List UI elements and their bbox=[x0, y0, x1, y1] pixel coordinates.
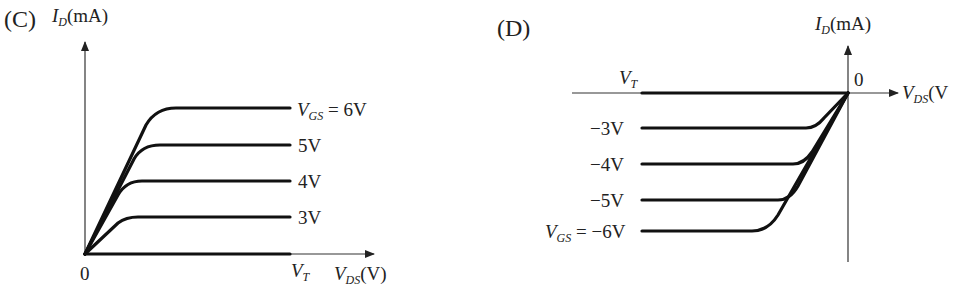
label-5v: 5V bbox=[298, 135, 322, 156]
label-neg3v: −3V bbox=[590, 118, 624, 139]
curve-vgs-neg6v bbox=[642, 93, 848, 231]
curve-vgs-3v bbox=[85, 217, 290, 254]
panel-d-origin: 0 bbox=[854, 69, 864, 90]
panel-c-curves bbox=[85, 108, 290, 254]
panel-d-curves bbox=[642, 93, 848, 231]
panel-d-tag: (D) bbox=[497, 15, 530, 41]
label-d-vt: VT bbox=[619, 67, 639, 91]
panel-c: (C) ID(mA) VGS = 6V 5V 4V 3V VT 0 VDS(V) bbox=[4, 5, 387, 287]
label-vgs-6v: VGS = 6V bbox=[297, 99, 367, 123]
panel-d-x-axis-label: VDS(V bbox=[902, 82, 949, 106]
label-vgs-neg6v: VGS = −6V bbox=[545, 221, 626, 245]
label-vt: VT bbox=[291, 260, 311, 284]
panel-c-tag: (C) bbox=[4, 6, 36, 32]
label-3v: 3V bbox=[298, 207, 322, 228]
label-neg5v: −5V bbox=[590, 190, 624, 211]
panel-d-y-axis-label: ID(mA) bbox=[814, 13, 871, 37]
panel-c-x-axis-label: VDS(V) bbox=[334, 263, 387, 287]
label-4v: 4V bbox=[298, 171, 322, 192]
panel-d: (D) ID(mA) 0 VDS(V VT −3V −4V −5V VGS = … bbox=[497, 13, 949, 262]
figure-canvas: (C) ID(mA) VGS = 6V 5V 4V 3V VT 0 VDS(V) bbox=[0, 0, 955, 288]
label-neg4v: −4V bbox=[590, 154, 624, 175]
curve-vgs-neg3v bbox=[642, 93, 848, 128]
panel-c-y-axis-label: ID(mA) bbox=[51, 5, 108, 29]
panel-c-origin: 0 bbox=[80, 263, 90, 284]
